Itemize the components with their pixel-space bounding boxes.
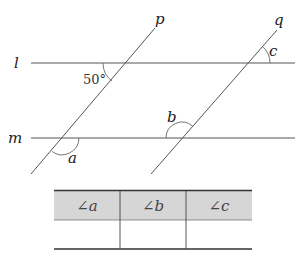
line-q — [151, 30, 277, 174]
label-l: l — [14, 54, 19, 72]
label-50-degrees: 50° — [83, 72, 106, 87]
table-header-angle-a: ∠a — [76, 197, 98, 215]
label-p: p — [155, 10, 165, 28]
label-angle-b: b — [167, 108, 177, 126]
label-q: q — [274, 11, 284, 29]
angle-table: ∠a ∠b ∠c — [54, 191, 252, 250]
table-header-angle-b: ∠b — [142, 197, 164, 215]
line-p — [31, 28, 155, 174]
parallel-lines-diagram: l m p q 50° a b c ∠a ∠b ∠c — [0, 0, 301, 266]
label-angle-c: c — [269, 42, 278, 60]
label-angle-a: a — [68, 149, 77, 167]
table-header-angle-c: ∠c — [209, 197, 231, 215]
label-m: m — [8, 129, 22, 147]
